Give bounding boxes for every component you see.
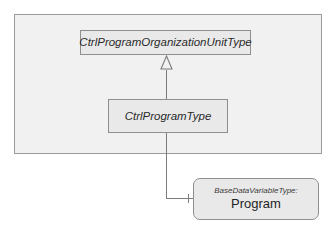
class-node-ctrlprogramtype[interactable]: CtrlProgramType bbox=[108, 99, 228, 133]
instance-node-type-reference: BaseDataVariableType: bbox=[214, 187, 298, 195]
association-tick-mark bbox=[188, 194, 189, 203]
cropped-caption-text: ‐‐‐ ‐‐ ‐‐ ‐ ‐ ‐‐ ‐ ‐ ‐‐‐ bbox=[0, 0, 334, 5]
instance-node-program[interactable]: BaseDataVariableType: Program bbox=[193, 178, 319, 220]
class-node-label: CtrlProgramOrganizationUnitType bbox=[79, 36, 251, 49]
association-line-vertical bbox=[166, 133, 167, 199]
class-node-label: CtrlProgramType bbox=[125, 110, 212, 123]
generalization-line bbox=[166, 70, 167, 99]
class-node-ctrlprogramorganizationunittype[interactable]: CtrlProgramOrganizationUnitType bbox=[80, 30, 251, 55]
diagram-canvas: ‐‐‐ ‐‐ ‐‐ ‐ ‐ ‐‐ ‐ ‐ ‐‐‐ CtrlProgramOrga… bbox=[0, 0, 334, 230]
instance-node-label: Program bbox=[231, 197, 281, 211]
hollow-triangle-arrow-icon bbox=[160, 55, 173, 70]
